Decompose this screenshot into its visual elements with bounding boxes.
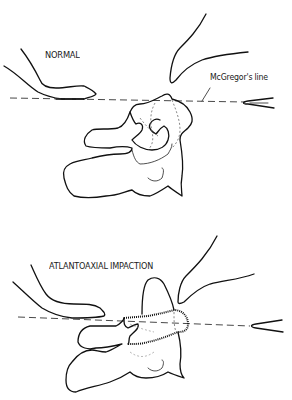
vertebra-faint-detail-impaction (130, 352, 154, 357)
mcgregors-line-leader (202, 88, 210, 101)
vertebra-detail-impaction (148, 360, 164, 371)
atlas-ring-normal (130, 112, 169, 150)
occiput-normal (170, 14, 248, 83)
diagram-canvas: NORMAL McGregor's line ATLANTOAXIAL IMPA… (0, 0, 292, 400)
occiput-impaction (178, 236, 254, 304)
atlas-anterior-arch-impaction (124, 310, 188, 332)
dens-outline2-normal (172, 100, 180, 148)
dens-base-impaction (174, 312, 176, 332)
dens-impaction (142, 278, 174, 314)
vertebra-detail2-normal (148, 168, 164, 181)
atlas-ring-impaction (124, 318, 138, 344)
mcgregors-line-normal (10, 98, 245, 102)
axis-vertebra-impaction (66, 318, 184, 392)
vertebra-detail-normal (132, 144, 172, 164)
hard-palate-normal (4, 49, 96, 99)
axis-vertebra-normal (63, 94, 192, 197)
impaction-anatomy-drawing (0, 200, 292, 400)
hard-palate-impaction (13, 265, 105, 318)
opisthion-impaction (252, 320, 284, 332)
normal-anatomy-drawing (0, 0, 292, 200)
atlas-posterior-arch-impaction (128, 332, 178, 344)
